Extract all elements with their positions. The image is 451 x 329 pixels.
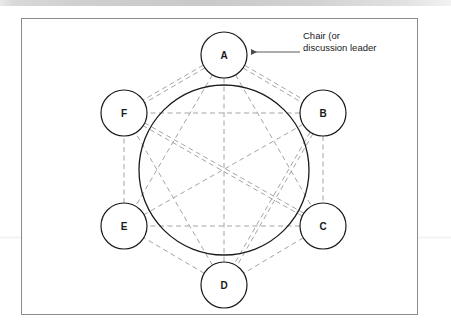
participant-label-a: A: [220, 50, 227, 61]
chord-d-f: [136, 133, 213, 265]
participant-label-f: F: [121, 108, 127, 119]
chord-c-f: [143, 126, 302, 216]
figure-page: ABCDEF Chair (or discussion leader: [0, 0, 451, 329]
round-table-outline: [139, 85, 309, 255]
participant-node-d: D: [201, 262, 247, 308]
participant-node-c: C: [300, 203, 346, 249]
chord-c-d: [244, 238, 303, 273]
chord-b-d: [234, 132, 310, 264]
participant-label-b: B: [319, 108, 326, 119]
chord-a-f: [143, 65, 203, 100]
participant-node-f: F: [101, 90, 147, 136]
chord-a-b: [243, 68, 302, 103]
chair-annotation-line1: Chair (or: [303, 30, 340, 41]
chord-a-c: [236, 75, 312, 206]
circular-seating-diagram: ABCDEF Chair (or discussion leader: [0, 0, 451, 329]
participant-node-b: B: [300, 90, 346, 136]
chord-a-b: [245, 65, 304, 100]
participant-label-d: D: [220, 280, 227, 291]
chord-d-e: [144, 238, 204, 274]
chord-b-e: [144, 124, 303, 214]
participant-label-c: C: [319, 221, 326, 232]
chord-a-f: [145, 68, 205, 103]
participant-node-e: E: [101, 203, 147, 249]
chair-annotation-line2: discussion leader: [303, 42, 376, 53]
chord-b-d: [237, 134, 313, 266]
chord-a-e: [136, 75, 213, 206]
participant-node-a: A: [201, 32, 247, 78]
participant-label-e: E: [121, 221, 128, 232]
chord-network: [124, 65, 323, 273]
